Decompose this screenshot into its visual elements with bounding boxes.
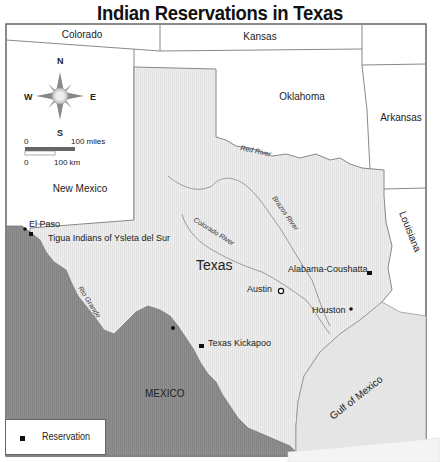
- label-texas-kickapoo: Texas Kickapoo: [208, 338, 271, 348]
- compass-e: E: [90, 92, 96, 102]
- label-new-mexico: New Mexico: [53, 183, 108, 194]
- reservation-texas-kickapoo: Texas Kickapoo: [199, 338, 271, 348]
- label-mexico: MEXICO: [145, 388, 185, 399]
- reservation-marker-icon: [367, 271, 372, 275]
- label-arkansas: Arkansas: [380, 112, 422, 123]
- label-oklahoma: Oklahoma: [279, 91, 325, 102]
- reservation-marker-icon: [199, 344, 204, 348]
- label-tigua: Tigua Indians of Ysleta del Sur: [48, 233, 170, 243]
- compass-n: N: [57, 56, 64, 66]
- legend-reservation-label: Reservation: [42, 431, 90, 442]
- label-austin: Austin: [247, 284, 272, 294]
- capital-star-icon: [278, 288, 283, 293]
- scale-miles-label: 100 miles: [71, 137, 105, 146]
- city-dot-icon: [171, 326, 175, 330]
- label-texas: Texas: [196, 257, 233, 273]
- map: N S W E 0 100 miles 0 100 km Colorado Ka…: [0, 0, 440, 462]
- scale-km-zero: 0: [24, 158, 29, 167]
- reservation-tigua: Tigua Indians of Ysleta del Sur: [29, 232, 170, 243]
- compass-s: S: [57, 128, 63, 138]
- label-houston: Houston: [312, 305, 346, 315]
- scale-km-label: 100 km: [54, 158, 81, 167]
- compass-w: W: [24, 92, 33, 102]
- label-el-paso: El Paso: [29, 219, 60, 229]
- city-dot-icon: [349, 307, 353, 311]
- scale-bar-km: [25, 151, 55, 155]
- label-alabama-coushatta: Alabama-Coushatta: [288, 264, 368, 274]
- city-dot-icon: [23, 227, 27, 231]
- scale-bar-miles: [25, 147, 75, 151]
- label-colorado: Colorado: [62, 29, 103, 40]
- reservation-alabama-coushatta: Alabama-Coushatta: [288, 264, 372, 275]
- reservation-marker-icon: [20, 436, 25, 441]
- reservation-marker-icon: [29, 232, 33, 236]
- scale-miles-zero: 0: [24, 137, 29, 146]
- map-legend: Reservation: [5, 419, 106, 455]
- label-kansas: Kansas: [243, 31, 276, 42]
